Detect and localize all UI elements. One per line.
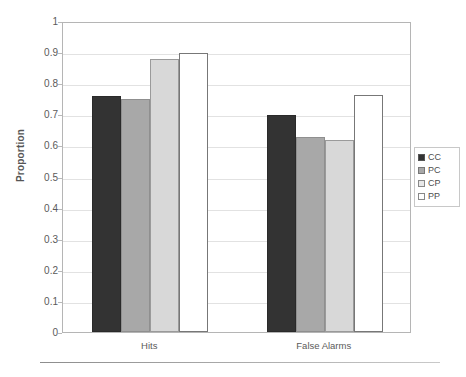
bar-cc-false-alarms — [267, 115, 296, 332]
y-axis-tick-label: 0.4 — [24, 204, 58, 214]
plot-area — [62, 22, 411, 333]
y-axis-tick-mark — [58, 84, 62, 85]
y-axis-tick-label: 0.3 — [24, 235, 58, 245]
bar-pp-false-alarms — [354, 95, 383, 332]
legend-item-label: PC — [428, 166, 441, 175]
bar-pp-hits — [179, 53, 208, 332]
gridline — [63, 85, 410, 86]
legend-item-label: CP — [428, 179, 441, 188]
y-axis-tick-label: 1 — [24, 17, 58, 27]
bar-cp-false-alarms — [325, 140, 354, 332]
y-axis-tick-label: 0.9 — [24, 48, 58, 58]
y-axis-tick-label: 0.2 — [24, 266, 58, 276]
bar-cp-hits — [150, 59, 179, 332]
y-axis-tick-mark — [58, 302, 62, 303]
bar-cc-hits — [92, 96, 121, 332]
y-axis-tick-label: 0.5 — [24, 173, 58, 183]
y-axis-tick-mark — [58, 333, 62, 334]
y-axis-tick-mark — [58, 146, 62, 147]
legend-item-pp[interactable]: PP — [418, 190, 457, 203]
y-axis-tick-label: 0.6 — [24, 141, 58, 151]
y-axis-tick-mark — [58, 209, 62, 210]
y-axis-tick-mark — [58, 115, 62, 116]
legend-swatch-icon — [418, 193, 425, 200]
y-axis-tick-label: 0 — [24, 328, 58, 338]
legend-item-pc[interactable]: PC — [418, 164, 457, 177]
bar-chart-figure: Proportion 10.90.80.70.60.50.40.30.20.10… — [0, 0, 466, 377]
legend-item-cc[interactable]: CC — [418, 151, 457, 164]
y-axis-tick-label: 0.1 — [24, 297, 58, 307]
bar-pc-false-alarms — [296, 137, 325, 332]
y-axis-tick-labels: 10.90.80.70.60.50.40.30.20.10 — [20, 0, 58, 377]
legend: CCPCCPPP — [414, 147, 460, 207]
legend-swatch-icon — [418, 154, 425, 161]
y-axis-tick-mark — [58, 53, 62, 54]
bar-pc-hits — [121, 99, 150, 332]
y-axis-tick-label: 0.8 — [24, 79, 58, 89]
x-axis-tick-label: Hits — [89, 340, 209, 351]
y-axis-tick-mark — [58, 178, 62, 179]
legend-swatch-icon — [418, 180, 425, 187]
legend-item-label: PP — [428, 192, 440, 201]
gridline — [63, 54, 410, 55]
y-axis-tick-label: 0.7 — [24, 110, 58, 120]
legend-item-cp[interactable]: CP — [418, 177, 457, 190]
y-axis-tick-mark — [58, 271, 62, 272]
x-axis-tick-label: False Alarms — [264, 340, 384, 351]
y-axis-tick-mark — [58, 22, 62, 23]
legend-item-label: CC — [428, 153, 441, 162]
y-axis-tick-mark — [58, 240, 62, 241]
legend-swatch-icon — [418, 167, 425, 174]
bottom-divider — [40, 362, 440, 363]
